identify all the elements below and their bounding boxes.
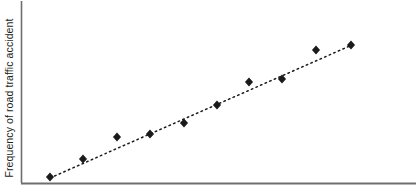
data-point-marker xyxy=(147,131,153,138)
trendline xyxy=(50,45,352,178)
data-point-marker xyxy=(246,79,252,86)
data-point-marker xyxy=(181,120,187,127)
data-point-marker xyxy=(114,134,120,141)
data-point-marker xyxy=(47,174,53,181)
scatter-chart-figure: Frequency of road traffic accident xyxy=(0,0,418,196)
data-point-marker xyxy=(313,47,319,54)
plot-area xyxy=(0,0,418,196)
data-point-marker xyxy=(80,156,86,163)
data-point-marker xyxy=(348,42,354,49)
data-point-marker xyxy=(214,102,220,109)
